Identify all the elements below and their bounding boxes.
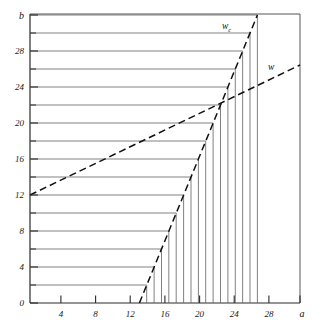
y-axis-ticks xyxy=(30,15,38,303)
x-axis-ticks xyxy=(61,296,300,304)
y-tick-label: 0 xyxy=(20,298,25,308)
chart-svg: 4 8 12 16 20 24 28 0 4 8 12 16 20 24 28 … xyxy=(0,0,317,325)
series-w-line xyxy=(30,65,300,195)
series-label-wc: wc xyxy=(222,21,231,33)
y-tick-label: 8 xyxy=(20,226,25,236)
y-tick-label: 28 xyxy=(15,46,25,56)
x-tick-label: 4 xyxy=(59,309,64,319)
x-tick-label: 16 xyxy=(160,309,170,319)
x-tick-label: 8 xyxy=(93,309,98,319)
y-tick-label: 20 xyxy=(15,118,25,128)
x-tick-label: 24 xyxy=(230,309,240,319)
series-label-w: w xyxy=(268,62,275,72)
staircase-construction xyxy=(30,15,257,303)
x-tick-labels: 4 8 12 16 20 24 28 xyxy=(59,309,274,319)
x-axis-name: a xyxy=(300,308,305,319)
y-tick-label: 24 xyxy=(15,82,25,92)
plot-frame xyxy=(30,14,300,303)
y-tick-label: 4 xyxy=(20,262,25,272)
y-tick-label: 12 xyxy=(15,190,25,200)
y-tick-labels: 0 4 8 12 16 20 24 28 xyxy=(15,46,25,308)
y-tick-label: 16 xyxy=(15,154,25,164)
x-tick-label: 12 xyxy=(126,309,136,319)
x-tick-label: 20 xyxy=(195,309,205,319)
figure-container: 4 8 12 16 20 24 28 0 4 8 12 16 20 24 28 … xyxy=(0,0,317,325)
y-axis-name: b xyxy=(19,10,24,21)
x-tick-label: 28 xyxy=(264,309,274,319)
